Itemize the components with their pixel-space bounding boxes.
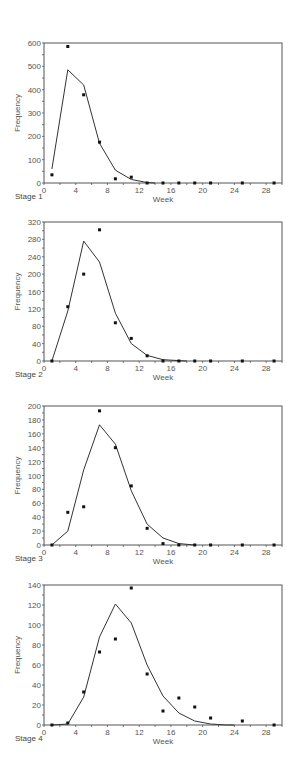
x-axis-title: Week xyxy=(153,737,174,746)
x-tick-label: 20 xyxy=(198,728,207,737)
x-tick-label: 8 xyxy=(105,728,110,737)
data-point xyxy=(209,717,212,720)
data-point xyxy=(162,710,165,713)
y-tick-label: 60 xyxy=(32,661,41,670)
data-point xyxy=(98,651,101,654)
data-point xyxy=(82,691,85,694)
plot-area: 0481216202428020406080100120140WeekFrequ… xyxy=(0,0,293,771)
data-point xyxy=(241,720,244,723)
x-tick-label: 24 xyxy=(230,728,239,737)
data-point xyxy=(193,706,196,709)
x-tick-label: 28 xyxy=(262,728,271,737)
chart-stage-4: 0481216202428020406080100120140WeekFrequ… xyxy=(0,0,293,771)
y-tick-label: 80 xyxy=(32,641,41,650)
y-tick-label: 100 xyxy=(28,621,42,630)
y-tick-label: 140 xyxy=(28,581,42,590)
y-tick-label: 120 xyxy=(28,601,42,610)
x-tick-label: 12 xyxy=(135,728,144,737)
data-point xyxy=(146,673,149,676)
y-tick-label: 20 xyxy=(32,701,41,710)
x-tick-label: 4 xyxy=(74,728,79,737)
fitted-curve xyxy=(52,604,235,725)
y-axis-title: Frequency xyxy=(13,636,22,674)
data-point xyxy=(50,724,53,727)
y-tick-label: 40 xyxy=(32,681,41,690)
data-point xyxy=(130,587,133,590)
stage-label: Stage 4 xyxy=(15,734,43,743)
data-point xyxy=(273,724,276,727)
y-tick-label: 0 xyxy=(37,721,42,730)
data-point xyxy=(114,638,117,641)
data-point xyxy=(66,722,69,725)
x-tick-label: 16 xyxy=(166,728,175,737)
data-point xyxy=(177,697,180,700)
